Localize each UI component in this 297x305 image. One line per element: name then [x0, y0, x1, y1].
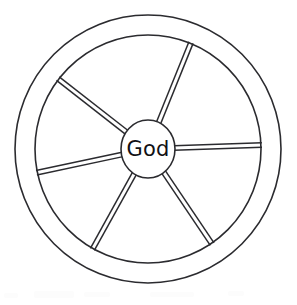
- spoke-right-rail: [174, 143, 262, 146]
- spoke-lower-right-rail: [161, 173, 210, 245]
- spoke-upper-left-rail: [56, 80, 125, 134]
- spoke-right-rail: [174, 147, 262, 150]
- scan-smudge: [34, 291, 74, 298]
- wheel-diagram-canvas: God: [0, 0, 297, 305]
- scan-smudge: [4, 293, 18, 298]
- spoke-lower-right: [161, 170, 214, 245]
- spoke-upper-right-rail: [156, 42, 189, 123]
- scan-smudge: [228, 291, 244, 296]
- spoke-lower-left: [90, 172, 136, 251]
- spoke-left-rail: [36, 152, 122, 170]
- spoke-upper-left: [56, 77, 128, 135]
- spoke-lower-left-rail: [94, 174, 136, 250]
- hub-group: God: [121, 120, 175, 178]
- wheel-illustration: God: [0, 0, 297, 305]
- spoke-upper-right: [156, 42, 193, 125]
- spoke-right: [174, 143, 262, 151]
- spoke-left-rail: [37, 157, 123, 175]
- spoke-lower-right-rail: [165, 170, 214, 242]
- spoke-upper-left-rail: [59, 77, 128, 131]
- scan-smudge: [84, 292, 110, 297]
- spoke-upper-right-rail: [160, 43, 193, 124]
- hub-label: God: [126, 137, 169, 161]
- spoke-lower-left-rail: [90, 172, 132, 248]
- scan-smudge: [150, 292, 194, 297]
- spoke-left: [36, 152, 123, 175]
